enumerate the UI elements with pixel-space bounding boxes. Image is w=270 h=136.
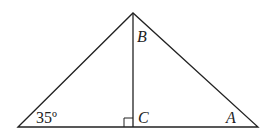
diagram-canvas: B C A 35º (0, 0, 270, 136)
label-b: B (137, 28, 147, 45)
right-angle-marker (124, 118, 133, 127)
label-a: A (225, 109, 236, 126)
triangle-diagram: B C A 35º (0, 0, 270, 136)
angle-label-35: 35º (36, 109, 57, 126)
label-c: C (138, 109, 149, 126)
